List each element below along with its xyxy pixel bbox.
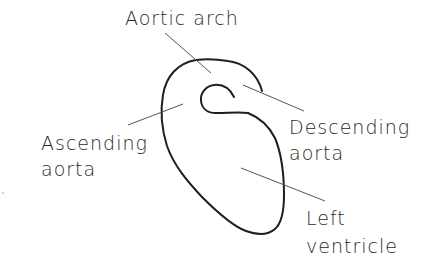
label-ascending-aorta-line2: aorta xyxy=(41,157,96,181)
label-descending-aorta-line1: Descending xyxy=(289,115,410,139)
label-left-ventricle-line2: ventricle xyxy=(306,234,398,258)
label-descending-aorta-line2: aorta xyxy=(289,141,344,165)
leader-ascending-aorta xyxy=(128,104,183,125)
leader-descending-aorta xyxy=(243,85,304,111)
leader-aortic-arch xyxy=(165,33,211,73)
aortic-arch-inner-curve xyxy=(201,85,248,113)
label-aortic-arch: Aortic arch xyxy=(125,6,239,30)
label-left-ventricle-line1: Left xyxy=(306,206,346,230)
stray-mark xyxy=(2,192,4,194)
label-ascending-aorta-line1: Ascending xyxy=(41,131,148,155)
